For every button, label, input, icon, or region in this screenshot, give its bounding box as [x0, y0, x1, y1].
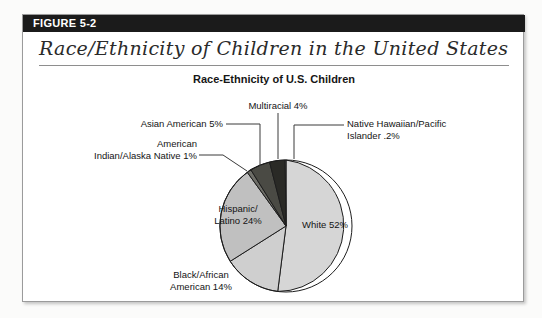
callout-asian-american-text: Asian American 5%: [141, 118, 223, 129]
callout-black-african-american: Black/African American 14%: [141, 269, 261, 293]
page-background: FIGURE 5-2 Race/Ethnicity of Children in…: [0, 0, 542, 318]
figure-headline: Race/Ethnicity of Children in the United…: [39, 37, 508, 59]
leader-line-native-hawaiian: [294, 125, 344, 159]
figure-frame: FIGURE 5-2 Race/Ethnicity of Children in…: [22, 14, 524, 302]
slice-label-white-text: White 52%: [302, 219, 348, 230]
slice-label-hispanic-line1: Hispanic/: [193, 203, 283, 215]
headline-divider: [39, 65, 509, 66]
callout-black-african-american-line1: Black/African: [141, 269, 261, 281]
slice-label-hispanic-line2: Latino 24%: [193, 215, 283, 227]
callout-multiracial: Multiracial 4%: [208, 100, 348, 112]
callout-american-indian-line2: Indian/Alaska Native 1%: [53, 150, 197, 162]
callout-american-indian: American Indian/Alaska Native 1%: [53, 138, 197, 162]
callout-asian-american: Asian American 5%: [83, 118, 223, 130]
callout-multiracial-text: Multiracial 4%: [248, 100, 307, 111]
figure-number-label: FIGURE 5-2: [33, 17, 97, 29]
callout-american-indian-line1: American: [53, 138, 197, 150]
callout-native-hawaiian-line2: Islander .2%: [347, 130, 446, 142]
pie-chart: Race-Ethnicity of U.S. Children: [23, 67, 525, 303]
callout-native-hawaiian-line1: Native Hawaiian/Pacific: [347, 118, 446, 130]
slice-label-white: White 52%: [285, 219, 365, 231]
slice-label-hispanic-latino: Hispanic/ Latino 24%: [193, 203, 283, 227]
figure-banner: FIGURE 5-2: [23, 15, 525, 32]
leader-line-american-indian: [223, 155, 247, 171]
leader-line-asian-american: [226, 124, 260, 166]
callout-native-hawaiian: Native Hawaiian/Pacific Islander .2%: [347, 118, 446, 142]
callout-black-african-american-line2: American 14%: [141, 281, 261, 293]
